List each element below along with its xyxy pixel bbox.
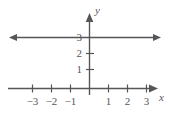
x-tick-label-3: 3 bbox=[137, 96, 156, 107]
y-tick-label-3: 3 bbox=[68, 32, 82, 43]
x-tick-label-minus-1: −1 bbox=[61, 96, 80, 107]
y-tick-label-1: 1 bbox=[68, 64, 82, 75]
y-axis-label: y bbox=[95, 5, 100, 16]
y-tick-label-2: 2 bbox=[68, 48, 82, 59]
x-axis bbox=[8, 85, 158, 93]
y-axis-arrowhead bbox=[86, 13, 94, 22]
x-axis-arrowhead bbox=[149, 85, 158, 93]
x-tick-label-minus-3: −3 bbox=[23, 96, 42, 107]
x-axis-label: x bbox=[159, 92, 164, 103]
line-right-arrowhead bbox=[153, 34, 161, 41]
line-y-equals-3 bbox=[9, 34, 161, 41]
x-tick-label-minus-2: −2 bbox=[42, 96, 61, 107]
coordinate-plane-figure: · bbox=[0, 0, 172, 119]
line-left-arrowhead bbox=[9, 34, 17, 41]
x-tick-label-1: 1 bbox=[99, 96, 118, 107]
x-tick-label-2: 2 bbox=[118, 96, 137, 107]
